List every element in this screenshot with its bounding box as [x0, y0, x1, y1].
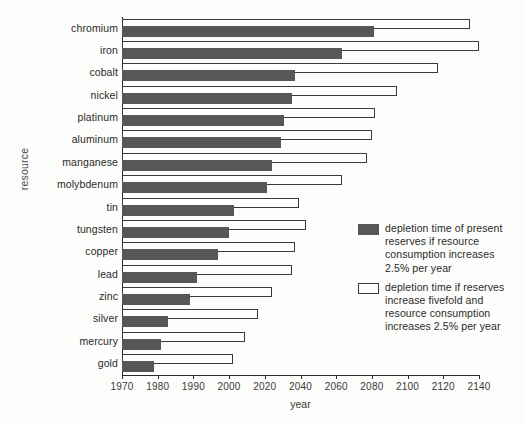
- bar-present-reserves: [122, 182, 267, 193]
- bar-present-reserves: [122, 160, 272, 171]
- bar-present-reserves: [122, 26, 374, 37]
- category-label: chromium: [34, 22, 118, 34]
- x-tick-mark: [408, 375, 409, 379]
- x-tick-mark: [372, 375, 373, 379]
- x-tick-mark: [122, 375, 123, 379]
- category-label: aluminum: [34, 133, 118, 145]
- category-label: copper: [34, 245, 118, 257]
- bar-present-reserves: [122, 361, 154, 372]
- category-label: gold: [34, 357, 118, 369]
- category-label: lead: [34, 268, 118, 280]
- x-tick-mark: [265, 375, 266, 379]
- bar-present-reserves: [122, 70, 295, 81]
- category-label: silver: [34, 312, 118, 324]
- x-tick-mark: [193, 375, 194, 379]
- category-label: tin: [34, 201, 118, 213]
- bar-present-reserves: [122, 294, 190, 305]
- legend-label: depletion time of present reserves if re…: [385, 222, 518, 275]
- bar-present-reserves: [122, 115, 284, 126]
- x-tick-mark: [479, 375, 480, 379]
- category-label: mercury: [34, 335, 118, 347]
- bar-present-reserves: [122, 249, 218, 260]
- bar-present-reserves: [122, 339, 161, 350]
- legend-swatch-filled-icon: [358, 224, 379, 235]
- category-label: tungsten: [34, 223, 118, 235]
- x-tick-mark: [443, 375, 444, 379]
- x-tick-mark: [158, 375, 159, 379]
- category-label-column: chromiumironcobaltnickelplatinumaluminum…: [34, 17, 118, 375]
- legend-swatch-hollow-icon: [358, 283, 379, 294]
- x-tick-mark: [336, 375, 337, 379]
- category-label: platinum: [34, 111, 118, 123]
- x-axis-title: year: [122, 398, 479, 410]
- bar-present-reserves: [122, 93, 292, 104]
- bar-present-reserves: [122, 316, 168, 327]
- category-label: nickel: [34, 89, 118, 101]
- category-label: manganese: [34, 156, 118, 168]
- bar-present-reserves: [122, 227, 229, 238]
- y-axis-title: resource: [18, 129, 30, 209]
- bar-present-reserves: [122, 137, 281, 148]
- category-label: cobalt: [34, 66, 118, 78]
- x-tick-label: 2140: [456, 381, 502, 392]
- category-label: zinc: [34, 290, 118, 302]
- bar-present-reserves: [122, 272, 197, 283]
- legend-entry: depletion time if reserves increase five…: [358, 281, 518, 334]
- category-label: iron: [34, 44, 118, 56]
- x-tick-mark: [301, 375, 302, 379]
- resource-depletion-chart: resource chromiumironcobaltnickelplatinu…: [0, 0, 524, 424]
- x-tick-mark: [229, 375, 230, 379]
- bar-present-reserves: [122, 48, 342, 59]
- legend-entry: depletion time of present reserves if re…: [358, 222, 518, 275]
- chart-legend: depletion time of present reserves if re…: [358, 222, 518, 340]
- legend-label: depletion time if reserves increase five…: [385, 281, 518, 334]
- bar-present-reserves: [122, 205, 234, 216]
- category-label: molybdenum: [34, 178, 118, 190]
